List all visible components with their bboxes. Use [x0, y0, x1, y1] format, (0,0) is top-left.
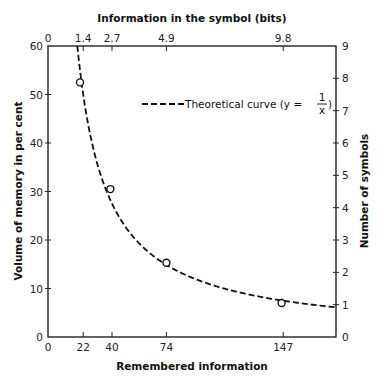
y2-tick-label: 1 — [342, 299, 349, 311]
legend: Theoretical curve (y = 1 x ) — [142, 91, 332, 116]
bottom-axis-title: Remembered information — [116, 360, 268, 372]
y-tick-label: 10 — [30, 283, 43, 295]
x-tick-label: 40 — [105, 341, 118, 353]
y-tick-label: 60 — [30, 40, 43, 52]
top-axis-title: Information in the symbol (bits) — [97, 12, 286, 24]
theoretical-curve — [77, 46, 336, 307]
x-tick-label: 147 — [273, 341, 293, 353]
y-tick-label: 0 — [36, 331, 43, 343]
y2-tick-label: 3 — [342, 234, 349, 246]
y-tick-label: 30 — [30, 186, 43, 198]
y2-tick-label: 6 — [342, 137, 349, 149]
data-point — [163, 259, 170, 266]
y2-tick-label: 4 — [342, 202, 349, 214]
y2-tick-label: 8 — [342, 72, 349, 84]
y-tick-label: 50 — [30, 89, 43, 101]
y2-tick-label: 9 — [342, 40, 349, 52]
curve-layer — [77, 46, 336, 307]
legend-fraction-den: x — [319, 104, 325, 116]
legend-label: Theoretical curve (y = — [184, 98, 302, 110]
x2-tick-label: 2.7 — [104, 32, 121, 44]
data-point — [278, 300, 285, 307]
y-tick-label: 20 — [30, 234, 43, 246]
plot-frame — [48, 46, 336, 337]
y2-tick-label: 5 — [342, 169, 349, 181]
right-axis-title: Number of symbols — [358, 134, 370, 249]
x-tick-label: 74 — [160, 341, 174, 353]
x2-tick-label: 4.9 — [158, 32, 175, 44]
x2-tick-label: 1.4 — [75, 32, 92, 44]
x-tick-label: 22 — [77, 341, 90, 353]
legend-close-paren: ) — [328, 98, 332, 110]
left-axis-title: Volume of memory in per cent — [12, 102, 24, 281]
y2-tick-label: 2 — [342, 266, 349, 278]
data-point — [77, 79, 84, 86]
y-tick-label: 40 — [30, 137, 43, 149]
y2-tick-label: 0 — [342, 331, 349, 343]
y2-tick-label: 7 — [342, 105, 349, 117]
x2-tick-label: 0 — [45, 32, 52, 44]
chart: Information in the symbol (bits) Remembe… — [0, 0, 378, 382]
legend-fraction-num: 1 — [319, 91, 326, 103]
data-point — [107, 186, 114, 193]
x-tick-label: 0 — [45, 341, 52, 353]
x2-tick-label: 9.8 — [275, 32, 292, 44]
